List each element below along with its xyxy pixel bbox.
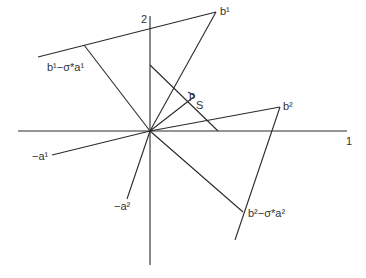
b1-vector-line bbox=[150, 12, 216, 131]
horizontal-axis-label: 1 bbox=[346, 135, 352, 147]
p-vector-line bbox=[150, 96, 195, 131]
b2-label: b² bbox=[283, 100, 293, 112]
s-line bbox=[150, 65, 218, 131]
b2-hyperplane-line bbox=[235, 107, 280, 240]
b1-hyperplane-line bbox=[38, 12, 216, 57]
s-label: S bbox=[196, 99, 203, 111]
neg-a1-label: −a¹ bbox=[32, 150, 49, 162]
neg-a1-vector-line bbox=[52, 131, 150, 155]
p-label: p bbox=[189, 89, 195, 101]
b2-minus-sigma-a2-line bbox=[150, 131, 243, 212]
neg-a2-label: −a² bbox=[114, 200, 131, 212]
vertical-axis-label: 2 bbox=[141, 13, 147, 25]
b2-minus-sigma-a2-label: b²−σ*a² bbox=[248, 207, 285, 219]
b1-minus-sigma-a1-label: b¹−σ*a¹ bbox=[47, 61, 84, 73]
neg-a2-vector-line bbox=[127, 131, 150, 199]
b1-label: b¹ bbox=[220, 5, 230, 17]
b1-minus-sigma-a1-line bbox=[84, 45, 150, 131]
vector-diagram: 2 1 b¹ b² b¹−σ*a¹ b²−σ*a² −a¹ −a² p S bbox=[0, 0, 366, 278]
